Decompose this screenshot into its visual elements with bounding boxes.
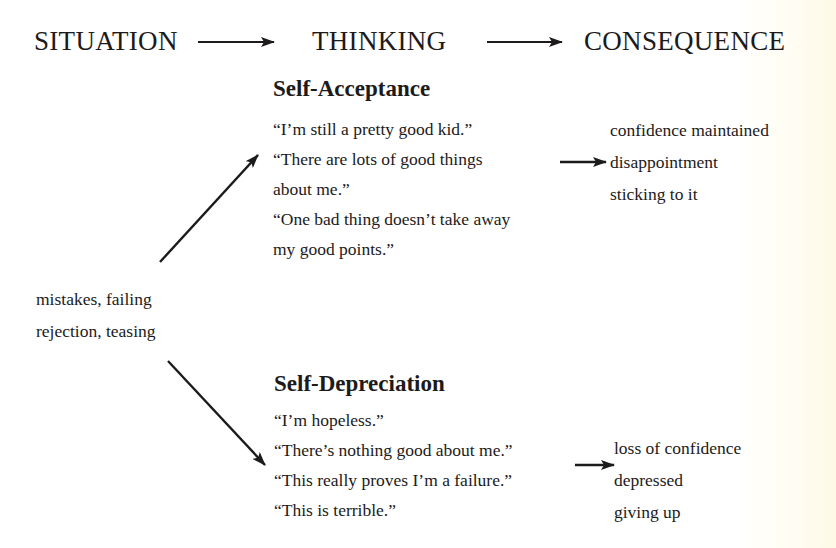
arrow-to-self-acceptance-icon: [160, 155, 258, 262]
header-consequence: CONSEQUENCE: [584, 26, 785, 57]
thought-line: “This is terrible.”: [274, 495, 513, 525]
thought-line: “I’m still a pretty good kid.”: [273, 114, 510, 144]
thought-line: “There are lots of good things: [273, 144, 510, 174]
arrow-to-self-depreciation-icon: [168, 361, 265, 465]
consequence-item: depressed: [614, 464, 741, 496]
situation-item: mistakes, failing: [36, 283, 156, 315]
header-situation: SITUATION: [34, 26, 178, 57]
thought-line: “This really proves I’m a failure.”: [274, 465, 513, 495]
situation-list: mistakes, failing rejection, teasing: [36, 283, 156, 347]
thought-line: “I’m hopeless.”: [274, 405, 513, 435]
thought-line: “One bad thing doesn’t take away: [273, 204, 510, 234]
self-depreciation-consequences: loss of confidence depressed giving up: [614, 432, 741, 528]
consequence-item: sticking to it: [610, 178, 769, 210]
thought-line: my good points.”: [273, 234, 510, 264]
thought-line: about me.”: [273, 174, 510, 204]
self-acceptance-title: Self-Acceptance: [273, 76, 430, 102]
header-thinking: THINKING: [312, 26, 446, 57]
situation-item: rejection, teasing: [36, 315, 156, 347]
consequence-item: confidence maintained: [610, 114, 769, 146]
consequence-item: giving up: [614, 496, 741, 528]
consequence-item: disappointment: [610, 146, 769, 178]
self-depreciation-thoughts: “I’m hopeless.” “There’s nothing good ab…: [274, 405, 513, 525]
consequence-item: loss of confidence: [614, 432, 741, 464]
self-depreciation-title: Self-Depreciation: [274, 371, 445, 397]
self-acceptance-consequences: confidence maintained disappointment sti…: [610, 114, 769, 210]
self-acceptance-thoughts: “I’m still a pretty good kid.” “There ar…: [273, 114, 510, 264]
thought-line: “There’s nothing good about me.”: [274, 435, 513, 465]
